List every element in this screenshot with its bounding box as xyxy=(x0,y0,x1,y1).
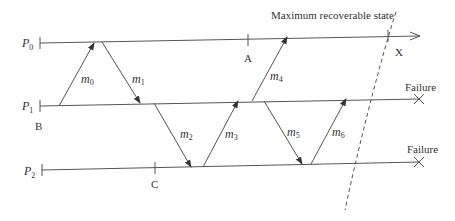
m2-label: m2 xyxy=(180,127,193,142)
diagram: P0 P1 P2 m0 m1 m2 m3 m4 m5 m6 A B C X Fa… xyxy=(0,0,455,221)
p1-label: P1 xyxy=(21,99,33,115)
failure-label-p1: Failure xyxy=(405,81,436,93)
cut-label: Maximum recoverable state xyxy=(271,9,394,21)
m4-label: m4 xyxy=(270,69,283,84)
p1-timeline xyxy=(40,99,420,106)
p0-label: P0 xyxy=(21,36,33,52)
m6-label: m6 xyxy=(332,125,345,140)
p2-label: P2 xyxy=(23,164,35,180)
m0-label: m0 xyxy=(81,72,94,87)
checkpoint-a-label: A xyxy=(244,52,252,64)
m1-label: m1 xyxy=(132,72,145,87)
p0-timeline xyxy=(40,36,420,43)
p2-timeline xyxy=(42,162,420,170)
checkpoint-c-label: C xyxy=(151,178,158,190)
m5-label: m5 xyxy=(287,125,300,140)
failure-label-p2: Failure xyxy=(407,143,438,155)
checkpoint-b-label: B xyxy=(35,120,42,132)
m3-label: m3 xyxy=(225,127,238,142)
checkpoint-x-label: X xyxy=(395,46,403,58)
